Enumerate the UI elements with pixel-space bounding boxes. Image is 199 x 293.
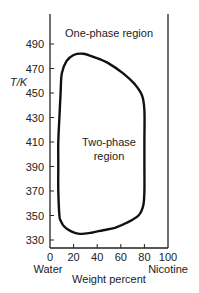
- x-tick-label: 80: [138, 251, 150, 263]
- x-tick-label: 20: [67, 251, 79, 263]
- y-tick-label: 330: [26, 234, 44, 246]
- x-tick-label: 100: [159, 251, 177, 263]
- x-axis-label: Weight percent: [72, 273, 146, 285]
- y-axis-label: T/K: [10, 76, 28, 88]
- y-tick-label: 490: [26, 38, 44, 50]
- x-ticks: 020406080100: [47, 244, 177, 263]
- water-label: Water: [34, 263, 63, 275]
- x-tick-label: 60: [115, 251, 127, 263]
- nicotine-label: Nicotine: [148, 263, 188, 275]
- x-tick-label: 0: [47, 251, 53, 263]
- two-phase-label-line1: Two-phase: [82, 136, 136, 148]
- two-phase-label-line2: region: [94, 150, 125, 162]
- y-tick-label: 410: [26, 136, 44, 148]
- axes: [50, 14, 168, 248]
- y-tick-label: 430: [26, 112, 44, 124]
- y-tick-label: 450: [26, 87, 44, 99]
- y-tick-label: 350: [26, 210, 44, 222]
- y-tick-label: 370: [26, 185, 44, 197]
- one-phase-label: One-phase region: [65, 27, 153, 39]
- y-tick-label: 470: [26, 63, 44, 75]
- y-tick-label: 390: [26, 161, 44, 173]
- x-tick-label: 40: [91, 251, 103, 263]
- phase-diagram: 330350370390410430450470490 020406080100…: [0, 0, 199, 293]
